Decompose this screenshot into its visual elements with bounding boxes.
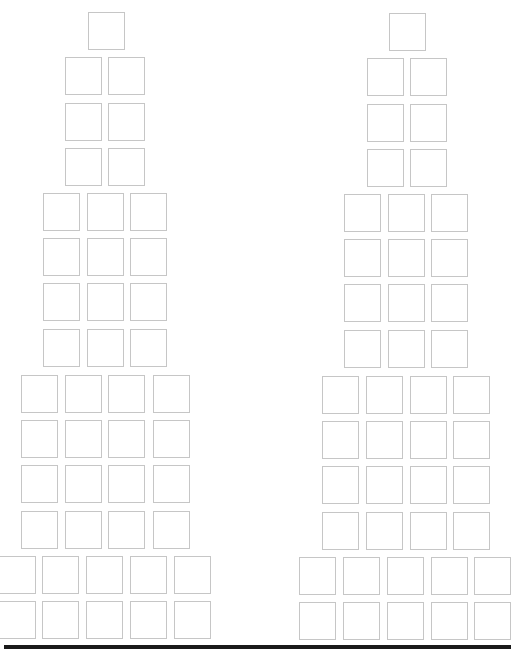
box [299,602,336,640]
box [474,557,511,595]
box [344,239,381,277]
box [410,58,447,96]
box [344,284,381,322]
box [367,104,404,142]
box [453,466,490,504]
box [388,330,425,368]
box [343,602,380,640]
box [387,602,424,640]
box [453,376,490,414]
box [322,376,359,414]
box [453,421,490,459]
box [366,376,403,414]
box [410,466,447,504]
box [299,557,336,595]
box [366,421,403,459]
box [388,194,425,232]
box [410,421,447,459]
box [431,557,468,595]
box [344,330,381,368]
bottom-bar [4,645,511,649]
box [431,194,468,232]
box [431,284,468,322]
box [343,557,380,595]
box [410,512,447,550]
box [453,512,490,550]
box [322,421,359,459]
box [322,466,359,504]
box [322,512,359,550]
box [367,58,404,96]
box [431,330,468,368]
box [388,284,425,322]
box [388,239,425,277]
box [474,602,511,640]
box [410,104,447,142]
box [431,602,468,640]
box [367,149,404,187]
box [389,13,426,51]
box [410,149,447,187]
box [366,512,403,550]
right-tower [0,0,515,649]
box [344,194,381,232]
box [366,466,403,504]
box [410,376,447,414]
box [431,239,468,277]
box [387,557,424,595]
